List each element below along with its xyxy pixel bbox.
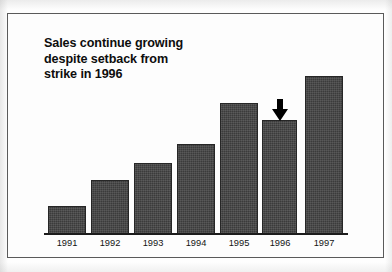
bar-1995 bbox=[220, 103, 258, 234]
x-tick-1992: 1992 bbox=[91, 238, 129, 248]
x-tick-1994: 1994 bbox=[177, 238, 215, 248]
bar-1997 bbox=[305, 76, 343, 234]
x-tick-1996: 1996 bbox=[261, 238, 299, 248]
bar-1996 bbox=[262, 120, 297, 234]
bar-chart-figure: Sales continue growing despite setback f… bbox=[0, 0, 392, 272]
x-tick-1997: 1997 bbox=[305, 238, 343, 248]
x-tick-1995: 1995 bbox=[220, 238, 258, 248]
bar-1992 bbox=[91, 180, 129, 234]
x-tick-1991: 1991 bbox=[48, 238, 86, 248]
bar-1994 bbox=[177, 144, 215, 234]
x-tick-1993: 1993 bbox=[134, 238, 172, 248]
x-axis-line bbox=[44, 233, 348, 235]
bar-1991 bbox=[48, 206, 86, 234]
bar-1993 bbox=[134, 163, 172, 234]
plot-area: 1991 1992 1993 1994 1995 1996 1997 bbox=[0, 0, 392, 272]
down-arrow-icon bbox=[271, 99, 289, 122]
